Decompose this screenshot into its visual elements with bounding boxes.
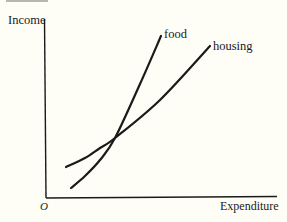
housing-series-label: housing xyxy=(213,40,253,52)
x-axis xyxy=(46,197,277,199)
y-axis xyxy=(45,19,47,198)
x-axis-label: Expenditure xyxy=(220,200,279,212)
food-series-label: food xyxy=(164,28,187,40)
housing-curve xyxy=(66,46,210,167)
y-axis-label: Income xyxy=(8,14,45,26)
origin-label: O xyxy=(40,200,48,212)
chart-canvas xyxy=(0,0,287,222)
